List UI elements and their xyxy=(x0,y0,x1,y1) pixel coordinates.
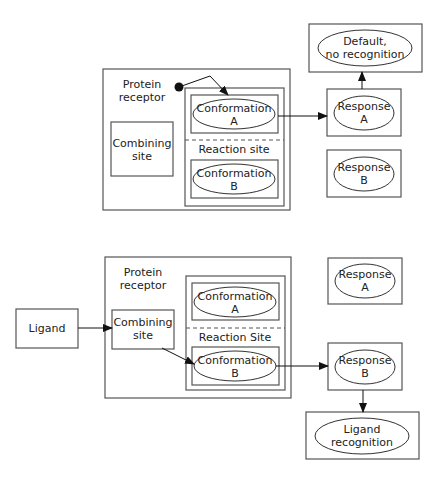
conformation-a-label-2: A xyxy=(231,303,239,316)
reaction-site-label: Reaction site xyxy=(198,143,269,156)
protein-receptor-label-2: receptor xyxy=(119,91,166,104)
bottom-diagram: Ligand Protein receptor Combining site R… xyxy=(16,257,419,459)
receptor-diagram: Protein receptor Combining site Reaction… xyxy=(0,0,440,478)
response-b-label: Response xyxy=(339,354,392,367)
response-b-label: Response xyxy=(338,161,391,174)
conformation-b-label-2: B xyxy=(231,367,239,380)
combining-site-label: Combining xyxy=(112,137,171,150)
conformation-a-label: Conformation xyxy=(197,102,272,115)
combining-site-label-2: site xyxy=(132,150,152,163)
response-a-label-2: A xyxy=(361,281,369,294)
response-b-label-2: B xyxy=(360,174,368,187)
top-diagram: Protein receptor Combining site Reaction… xyxy=(103,24,422,210)
response-a-label-2: A xyxy=(360,113,368,126)
conformation-b-label: Conformation xyxy=(197,167,272,180)
conformation-b-label: Conformation xyxy=(198,354,273,367)
combining-site-label: Combining xyxy=(113,316,172,329)
reaction-site-label: Reaction Site xyxy=(199,331,272,344)
ligand-recognition-label: Ligand xyxy=(344,423,381,436)
response-b-label-2: B xyxy=(361,367,369,380)
protein-receptor-label: Protein xyxy=(123,78,162,91)
ligand-recognition-label-2: recognition xyxy=(331,436,393,449)
default-outcome-label: Default, xyxy=(343,35,387,48)
combining-site-label-2: site xyxy=(133,329,153,342)
conformation-b-label-2: B xyxy=(230,180,238,193)
response-a-label: Response xyxy=(338,100,391,113)
conformation-a-label-2: A xyxy=(230,115,238,128)
protein-receptor-label: Protein xyxy=(124,266,163,279)
conformation-a-label: Conformation xyxy=(198,290,273,303)
protein-receptor-label-2: receptor xyxy=(120,279,167,292)
ligand-label: Ligand xyxy=(29,322,66,335)
response-a-label: Response xyxy=(339,268,392,281)
default-outcome-label-2: no recognition xyxy=(325,48,404,61)
